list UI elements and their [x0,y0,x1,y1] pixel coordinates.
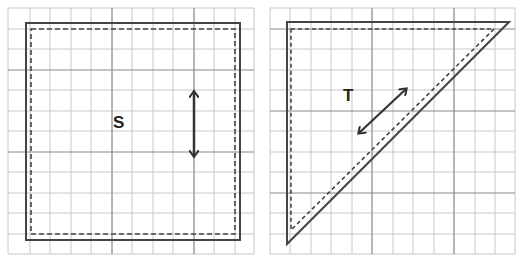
triangle-t-solid-outline [287,22,509,244]
diagram-canvas: S T [0,0,523,262]
left-grid [8,8,254,254]
label-s: S [113,113,124,132]
label-t: T [343,86,354,105]
